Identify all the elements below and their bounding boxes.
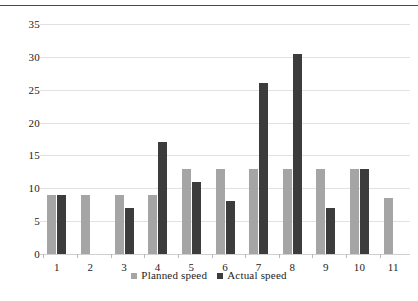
bar-actual-9 xyxy=(326,208,335,254)
y-tick-label: 35 xyxy=(12,19,40,30)
y-tick-label: 10 xyxy=(12,183,40,194)
y-tick-label: 30 xyxy=(12,52,40,63)
x-tickmark xyxy=(144,254,145,258)
bar-planned-4 xyxy=(148,195,157,254)
legend-swatch-icon xyxy=(217,273,223,279)
chart-legend: Planned speedActual speed xyxy=(0,270,418,281)
gridline-25 xyxy=(40,90,410,91)
gridline-35 xyxy=(40,24,410,25)
bar-planned-6 xyxy=(216,169,225,254)
x-tickmark xyxy=(312,254,313,258)
bar-planned-3 xyxy=(115,195,124,254)
bar-planned-8 xyxy=(283,169,292,254)
y-tick-label: 0 xyxy=(12,249,40,260)
bar-planned-2 xyxy=(81,195,90,254)
bar-actual-3 xyxy=(125,208,134,254)
gridline-15 xyxy=(40,155,410,156)
y-tick-label: 15 xyxy=(12,150,40,161)
bar-planned-10 xyxy=(350,169,359,254)
x-tickmark xyxy=(212,254,213,258)
x-tickmark xyxy=(346,254,347,258)
x-tickmark xyxy=(43,254,44,258)
x-tickmark xyxy=(380,254,381,258)
gridline-0 xyxy=(40,254,410,255)
y-tick-label: 20 xyxy=(12,118,40,129)
legend-swatch-icon xyxy=(131,273,137,279)
gridline-20 xyxy=(40,123,410,124)
bar-chart: 05101520253035 1234567891011 Planned spe… xyxy=(0,0,418,301)
plot-area xyxy=(40,24,410,254)
y-tick-label: 5 xyxy=(12,216,40,227)
bar-planned-5 xyxy=(182,169,191,254)
legend-label: Actual speed xyxy=(227,270,287,281)
bar-planned-1 xyxy=(47,195,56,254)
bar-actual-1 xyxy=(57,195,66,254)
legend-entry[interactable]: Planned speed xyxy=(131,270,207,281)
bar-planned-9 xyxy=(316,169,325,254)
bar-actual-5 xyxy=(192,182,201,254)
bar-actual-10 xyxy=(360,169,369,254)
bar-planned-11 xyxy=(384,198,393,254)
bar-actual-4 xyxy=(158,142,167,254)
x-tickmark xyxy=(178,254,179,258)
bar-actual-6 xyxy=(226,201,235,254)
legend-entry[interactable]: Actual speed xyxy=(217,270,287,281)
x-tickmark xyxy=(245,254,246,258)
bar-actual-7 xyxy=(259,83,268,254)
x-tickmark xyxy=(77,254,78,258)
gridline-30 xyxy=(40,57,410,58)
x-tickmark xyxy=(111,254,112,258)
bar-actual-8 xyxy=(293,54,302,254)
x-tickmark xyxy=(279,254,280,258)
y-tick-label: 25 xyxy=(12,85,40,96)
legend-label: Planned speed xyxy=(141,270,207,281)
bar-planned-7 xyxy=(249,169,258,254)
